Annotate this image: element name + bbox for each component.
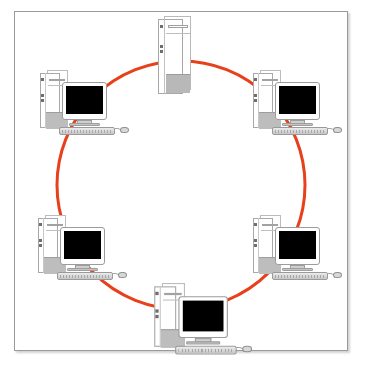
diagram-canvas: [0, 0, 365, 369]
server-panel-divider: [166, 33, 190, 34]
node-bottom-right[interactable]: [251, 215, 351, 287]
node-bottom-left[interactable]: [36, 215, 136, 287]
server-activity-led-icon: [160, 45, 163, 48]
keyboard: [272, 272, 328, 280]
tower-activity-led-icon: [254, 239, 257, 242]
keyboard-keys: [62, 130, 112, 133]
server-drive-bay-icon: [168, 25, 188, 28]
monitor-stand-base: [282, 268, 313, 271]
tower-drive-bay-icon: [47, 224, 63, 226]
workstation-assembly: [251, 70, 351, 142]
keyboard-keys: [178, 349, 233, 352]
tower-activity-led-icon: [155, 309, 158, 312]
keyboard: [272, 127, 328, 135]
server-base-panel: [166, 74, 190, 93]
server-power-led-icon: [160, 25, 163, 28]
keyboard: [175, 346, 237, 355]
monitor-stand-base: [186, 341, 220, 344]
workstation-assembly: [38, 70, 138, 142]
tower-power-led-icon: [155, 292, 158, 295]
node-top-server[interactable]: [158, 16, 192, 94]
keyboard-keys: [275, 275, 325, 278]
mouse: [120, 127, 129, 133]
monitor-screen: [183, 301, 224, 332]
server-left-bezel: [158, 19, 165, 94]
mouse: [333, 127, 342, 133]
server-status-led-icon: [160, 50, 163, 53]
tower-power-led-icon: [254, 223, 257, 226]
monitor-stand-base: [67, 268, 98, 271]
monitor-screen: [279, 86, 316, 114]
tower-power-led-icon: [41, 78, 44, 81]
monitor-screen: [66, 86, 103, 114]
tower-drive-bay-icon: [164, 293, 182, 295]
monitor-stand-base: [69, 123, 100, 126]
monitor-stand-base: [282, 123, 313, 126]
keyboard: [59, 127, 115, 135]
workstation-assembly: [251, 215, 351, 287]
tower-drive-bay-icon: [49, 79, 65, 81]
keyboard-keys: [60, 275, 110, 278]
tower-drive-bay-icon: [262, 79, 278, 81]
node-top-right[interactable]: [251, 70, 351, 142]
keyboard-keys: [275, 130, 325, 133]
workstation-assembly: [152, 283, 262, 362]
tower-drive-bay-icon: [262, 224, 278, 226]
mouse: [333, 272, 342, 278]
mouse: [118, 272, 127, 278]
tower-status-led-icon: [254, 244, 257, 247]
tower-activity-led-icon: [39, 239, 42, 242]
tower-power-led-icon: [254, 78, 257, 81]
keyboard: [57, 272, 113, 280]
monitor-screen: [64, 231, 101, 259]
tower-status-led-icon: [155, 315, 158, 318]
node-bottom-center[interactable]: [152, 283, 252, 355]
tower-status-led-icon: [41, 99, 44, 102]
server-tower-chassis: [158, 16, 192, 94]
tower-status-led-icon: [254, 99, 257, 102]
tower-activity-led-icon: [41, 94, 44, 97]
node-top-left[interactable]: [38, 70, 138, 142]
monitor-screen: [279, 231, 316, 259]
tower-status-led-icon: [39, 244, 42, 247]
tower-power-led-icon: [39, 223, 42, 226]
workstation-assembly: [36, 215, 136, 287]
mouse: [242, 346, 252, 353]
tower-activity-led-icon: [254, 94, 257, 97]
